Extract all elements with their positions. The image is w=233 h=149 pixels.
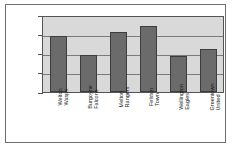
bar-felston-town (140, 26, 157, 92)
x-axis-label-welton-wasps: Welton Wasps (57, 88, 69, 105)
bar-welton-wasps (50, 36, 67, 92)
bar-melton-rangers (110, 32, 127, 92)
x-axis-label-line2: Eagles (184, 84, 190, 110)
x-axis-label-wellington-eagles: Wellington Eagles (178, 84, 190, 110)
x-axis-label-line2: Falcons (93, 85, 99, 109)
x-label-slot-0: Welton Wasps (49, 95, 66, 145)
x-axis-label-line2: United (215, 84, 221, 111)
x-axis-label-greentown-united: Greentown United (209, 84, 221, 111)
plot-area (42, 16, 224, 93)
x-label-slot-5: Greentown United (200, 95, 217, 145)
x-axis-label-melton-rangers: Melton Rangers (118, 87, 130, 108)
x-label-slot-1: Burgoyne Falcons (79, 95, 96, 145)
y-tick-10 (38, 54, 42, 55)
y-tick-15 (38, 35, 42, 36)
y-axis: 20 15 10 5 0 (42, 16, 43, 94)
x-label-slot-3: Felston Town (140, 95, 157, 145)
chart-frame: 20 15 10 5 0 Welton Wasps Burgoyne Falco… (5, 4, 226, 143)
y-tick-5 (38, 73, 42, 74)
x-axis-label-line2: Town (154, 88, 160, 106)
x-axis-label-line2: Wasps (63, 88, 69, 105)
x-axis-label-line2: Rangers (124, 87, 130, 108)
y-tick-0 (38, 93, 42, 94)
x-label-slot-4: Wellington Eagles (170, 95, 187, 145)
bar-series (43, 17, 223, 92)
x-axis-label-felston-town: Felston Town (148, 88, 160, 106)
x-axis-label-line1: Melton (118, 87, 124, 108)
x-axis-label-burgoyne-falcons: Burgoyne Falcons (87, 85, 99, 109)
x-axis-label-line1: Greentown (209, 84, 215, 111)
y-tick-20 (38, 16, 42, 17)
x-label-slot-2: Melton Rangers (109, 95, 126, 145)
x-axis-labels: Welton Wasps Burgoyne Falcons Melton Ran… (42, 95, 224, 145)
